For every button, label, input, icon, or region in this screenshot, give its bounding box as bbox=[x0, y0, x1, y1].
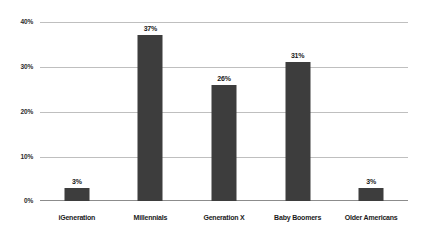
y-tick-label-30: 30% bbox=[21, 64, 33, 71]
bar-value-generation-x: 26% bbox=[217, 75, 230, 82]
x-tick-label-older-americans: Older Americans bbox=[334, 214, 408, 221]
bar-group-generation-x: 26% bbox=[187, 22, 261, 201]
x-axis: iGeneration Millennials Generation X Bab… bbox=[40, 214, 408, 232]
bar-group-older-americans: 3% bbox=[334, 22, 408, 201]
x-tick-label-millennials: Millennials bbox=[114, 214, 188, 221]
y-tick-label-40: 40% bbox=[21, 19, 33, 26]
bar-older-americans[interactable] bbox=[359, 188, 384, 201]
y-tick-label-20: 20% bbox=[21, 109, 33, 116]
plot-area: 3% 37% 26% 31% 3% bbox=[40, 22, 408, 201]
bar-value-older-americans: 3% bbox=[366, 178, 376, 185]
bar-baby-boomers[interactable] bbox=[285, 62, 310, 201]
bar-group-millennials: 37% bbox=[114, 22, 188, 201]
bar-igeneration[interactable] bbox=[64, 188, 89, 201]
x-tick-label-igeneration: iGeneration bbox=[40, 214, 114, 221]
bar-group-igeneration: 3% bbox=[40, 22, 114, 201]
x-tick-label-baby-boomers: Baby Boomers bbox=[261, 214, 335, 221]
y-tick-label-10: 10% bbox=[21, 154, 33, 161]
bar-value-millennials: 37% bbox=[144, 25, 157, 32]
bar-value-baby-boomers: 31% bbox=[291, 52, 304, 59]
bar-chart: 40% 30% 20% 10% 0% 3% 37% 26% 31% 3% bbox=[0, 0, 428, 239]
y-axis: 40% 30% 20% 10% 0% bbox=[0, 0, 38, 239]
bar-value-igeneration: 3% bbox=[72, 178, 82, 185]
bar-millennials[interactable] bbox=[138, 35, 163, 201]
bar-group-baby-boomers: 31% bbox=[261, 22, 335, 201]
bar-generation-x[interactable] bbox=[211, 85, 236, 201]
x-tick-label-generation-x: Generation X bbox=[187, 214, 261, 221]
y-tick-label-0: 0% bbox=[24, 198, 33, 205]
